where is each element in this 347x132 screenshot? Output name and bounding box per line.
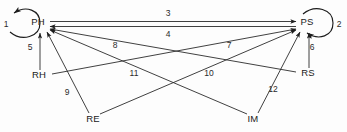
edge-label-5: 5 [28,42,33,52]
node-label-im: IM [248,113,259,124]
edge-label-11: 11 [130,68,139,78]
edge-label-8: 8 [113,40,118,50]
node-label-rh: RH [32,69,46,80]
node-label-ps: PS [300,16,313,27]
edge-label-7: 7 [227,40,232,50]
edge-label-6: 6 [310,42,315,52]
path-diagram-canvas: PH PS RH RS RE IM 1 2 3 4 5 6 7 8 9 10 1… [0,0,347,132]
edge-label-3: 3 [166,8,171,18]
path-diagram-container: PH PS RH RS RE IM 1 2 3 4 5 6 7 8 9 10 1… [0,0,347,132]
edge-11-line [50,30,247,114]
edge-label-4: 4 [166,29,171,39]
edge-label-9: 9 [65,87,70,97]
node-label-rs: RS [301,67,315,78]
edge-label-10: 10 [204,68,214,78]
node-label-ph: PH [31,16,45,27]
node-label-re: RE [86,113,100,124]
edge-label-2: 2 [337,19,342,29]
edge-label-1: 1 [4,19,9,29]
edge-label-12: 12 [268,84,278,94]
edge-12-line [258,32,300,113]
